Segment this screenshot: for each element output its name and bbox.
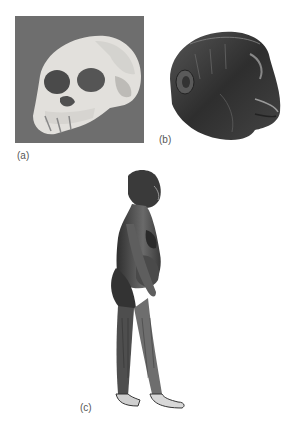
hominid-figure-icon (90, 168, 200, 418)
full-body-reconstruction (90, 168, 200, 418)
skull-photo (15, 16, 144, 143)
head-reconstruction (160, 24, 285, 142)
panel-label-b: (b) (159, 134, 171, 145)
ape-head-icon (160, 24, 285, 142)
panel-label-a: (a) (17, 150, 29, 161)
skull-icon (15, 16, 144, 143)
panel-label-c: (c) (80, 402, 92, 413)
